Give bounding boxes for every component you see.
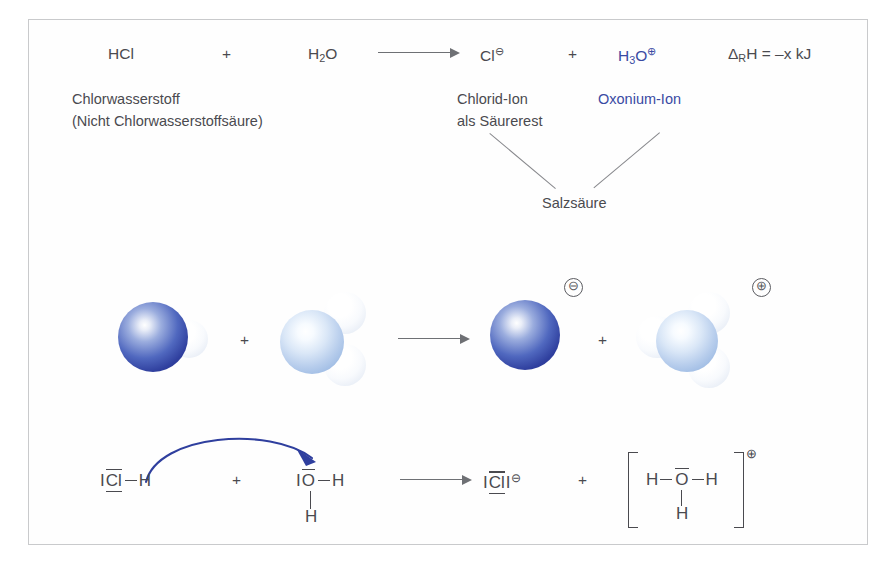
water-o: O: [325, 45, 337, 62]
label-chlorwasserstoff: Chlorwasserstoff: [72, 90, 180, 110]
hydronium-core: HOH: [646, 470, 718, 490]
model-chloride-ion: [490, 300, 566, 376]
lewis-hcl: IClH: [100, 471, 151, 491]
label-salzsaeure: Salzsäure: [542, 194, 606, 214]
reaction-arrow-top: [378, 48, 460, 58]
chloride-ion-sphere: [490, 300, 560, 370]
hcl-cl-underline: [106, 491, 122, 492]
hydronium-charge: ⊕: [647, 45, 656, 57]
hcl-chlorine-atom: Cl: [105, 471, 123, 491]
hydronium-o-label: O: [675, 470, 688, 489]
hydronium-bond-right: [692, 479, 704, 480]
label-nicht-chlorwasserstoffsaeure: (Nicht Chlorwasserstoffsäure): [72, 112, 263, 132]
label-oxonium-ion: Oxonium-Ion: [598, 90, 681, 110]
label-chlorid-ion: Chlorid-Ion: [457, 90, 528, 110]
curved-arrow-path: [146, 439, 312, 482]
water-bond-right: [318, 480, 330, 481]
hcl-hydrogen-label: H: [139, 471, 151, 490]
hydronium-hydrogen-left: H: [646, 470, 658, 489]
lewis-water: IOH H: [296, 471, 344, 491]
reactant-hcl-formula: HCl: [108, 44, 134, 65]
curved-arrow-head: [296, 448, 316, 466]
water-h: H: [308, 45, 319, 62]
chloride-atom: Cl: [488, 473, 506, 493]
model-water: [280, 292, 385, 388]
arrow-shaft: [398, 338, 461, 339]
equation-plus-2: +: [568, 44, 577, 65]
water-oxygen-sphere: [280, 310, 344, 374]
hydronium-o: O: [635, 47, 647, 64]
arrow-head: [462, 475, 472, 485]
model-hcl: [118, 300, 228, 380]
arrow-head: [460, 334, 470, 344]
arrow-shaft: [400, 479, 463, 480]
reaction-enthalpy: ΔRH = –x kJ: [728, 44, 811, 66]
arrow-head: [450, 48, 460, 58]
hydronium-oxygen-atom: O: [674, 470, 689, 490]
model-hydronium-ion: [636, 292, 752, 390]
hydronium-oxygen-sphere: [656, 310, 718, 372]
water-o-label: O: [302, 471, 315, 490]
lewis-plus-2: +: [578, 470, 587, 491]
lewis-hydronium: HOH H ⊕: [628, 452, 756, 528]
lewis-chloride: IClI⊖: [483, 471, 521, 493]
equation-plus-1: +: [222, 44, 231, 65]
label-als-saeurerest: als Säurerest: [457, 112, 542, 132]
delta-symbol: Δ: [728, 45, 738, 62]
hydronium-hydrogen-bottom: H: [676, 504, 688, 524]
hydronium-ion-charge-badge: ⊕: [752, 278, 771, 297]
hydronium-o-overline: [675, 468, 688, 469]
hcl-chlorine-sphere: [118, 302, 188, 372]
enthalpy-value: H = –x kJ: [746, 45, 811, 62]
reaction-arrow-lewis: [400, 475, 472, 485]
hydronium-bracket-left: [628, 452, 638, 528]
reaction-arrow-models: [398, 334, 470, 344]
reactant-water-formula: H2O: [308, 44, 337, 66]
water-hydrogen-bottom: H: [305, 507, 317, 527]
chloride-overline: [489, 471, 505, 472]
hydronium-hydrogen-right: H: [706, 470, 718, 489]
hydronium-charge-sup: ⊕: [746, 446, 757, 461]
hydronium-h: H: [618, 47, 629, 64]
water-hydrogen-right: H: [332, 471, 344, 490]
hcl-cl-label: Cl: [106, 471, 122, 490]
chloride-label: Cl: [489, 473, 505, 492]
hcl-bond: [125, 480, 137, 481]
product-hydronium-formula: H3O⊕: [618, 44, 656, 67]
arrow-shaft: [378, 52, 451, 53]
model-plus-1: +: [240, 330, 249, 351]
chloride-underline: [489, 493, 505, 494]
chloride-charge: ⊖: [495, 45, 504, 57]
lewis-plus-1: +: [232, 470, 241, 491]
hcl-cl-overline: [106, 469, 122, 470]
chloride-charge-sup: ⊖: [511, 471, 521, 485]
chemistry-figure: HCl + H2O Cl⊖ + H3O⊕ ΔRH = –x kJ Chlorwa…: [0, 0, 895, 570]
hydronium-bracket-right: [734, 452, 744, 528]
chloride-ion-charge-badge: ⊖: [564, 278, 583, 297]
model-plus-2: +: [598, 330, 607, 351]
product-chloride-formula: Cl⊖: [480, 44, 504, 67]
water-o-overline: [302, 469, 315, 470]
chloride-cl: Cl: [480, 47, 495, 64]
hydronium-bond-left: [660, 479, 672, 480]
water-oxygen-atom: O: [301, 471, 316, 491]
